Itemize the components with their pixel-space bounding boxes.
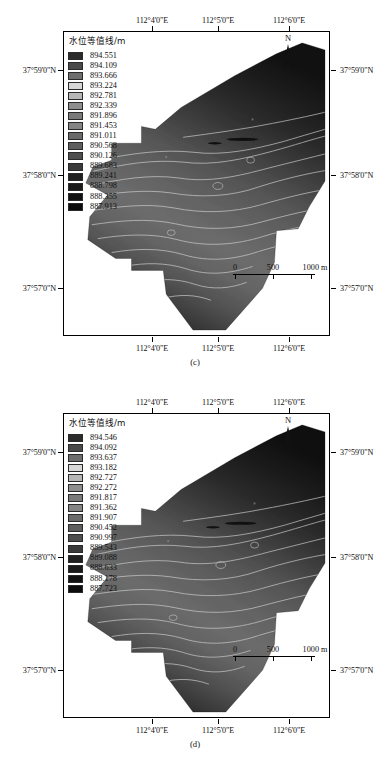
legend-item: 894.109 <box>68 61 154 71</box>
legend-value: 887.723 <box>90 585 117 593</box>
scalebar-tick-label: 0 <box>233 263 237 272</box>
axis-label-right-1: 37°58'0"N <box>340 553 373 562</box>
legend-title: 水位等值线/m <box>69 416 154 428</box>
legend-item: 893.182 <box>68 463 154 473</box>
axis-label-bottom-0: 112°4'0"E <box>136 344 168 353</box>
legend-swatch <box>68 142 83 150</box>
legend-swatch <box>68 444 83 452</box>
axis-label-bottom-0: 112°4'0"E <box>136 726 168 735</box>
axis-tick-bottom-2 <box>289 337 290 342</box>
legend-item: 889.683 <box>68 162 154 172</box>
legend-value: 893.224 <box>90 82 117 90</box>
legend-swatch <box>68 575 83 583</box>
legend-item: 891.907 <box>68 513 154 523</box>
legend-c: 水位等值线/m 894.551 894.109 893.666 893.224 … <box>68 34 154 212</box>
legend-value: 889.241 <box>90 172 117 180</box>
legend-item: 892.339 <box>68 101 154 111</box>
axis-label-right-0: 37°59'0"N <box>340 448 373 457</box>
legend-item: 891.453 <box>68 121 154 131</box>
legend-value: 892.727 <box>90 474 117 482</box>
scalebar-bar <box>233 274 315 275</box>
legend-item: 891.896 <box>68 111 154 121</box>
legend-swatch <box>68 555 83 563</box>
legend-swatch <box>68 62 83 70</box>
legend-item: 893.224 <box>68 81 154 91</box>
scalebar-line <box>233 656 315 662</box>
legend-swatch <box>68 102 83 110</box>
axis-label-left-2: 37°57'0"N <box>23 284 56 293</box>
legend-swatch <box>68 545 83 553</box>
north-arrow-icon <box>281 44 295 69</box>
legend-item: 888.178 <box>68 574 154 584</box>
scalebar-c: 0 500 1000 m <box>233 263 315 280</box>
scalebar-tick <box>273 274 274 279</box>
scalebar-tick-label: 1000 m <box>303 263 328 272</box>
axis-label-bottom-2: 112°6'0"E <box>273 344 305 353</box>
legend-value: 893.637 <box>90 454 117 462</box>
legend-swatch <box>68 152 83 160</box>
scalebar-tick <box>235 656 236 661</box>
legend-value: 893.666 <box>90 72 117 80</box>
legend-swatch <box>68 203 83 211</box>
axis-label-bottom-2: 112°6'0"E <box>273 726 305 735</box>
legend-swatch <box>68 82 83 90</box>
axis-label-left-2: 37°57'0"N <box>23 666 56 675</box>
scalebar-tick-label: 0 <box>233 645 237 654</box>
legend-value: 889.088 <box>90 554 117 562</box>
legend-value: 887.913 <box>90 203 117 211</box>
scalebar-tick <box>311 274 312 279</box>
axis-label-top-1: 112°5'0"E <box>202 16 234 25</box>
panel-caption-d: (d) <box>190 739 200 749</box>
scalebar-tick-label: 500 <box>267 645 279 654</box>
axis-tick-bottom-0 <box>152 719 153 724</box>
legend-value: 888.178 <box>90 575 117 583</box>
axis-tick-right-1 <box>331 557 336 558</box>
legend-value: 890.452 <box>90 524 117 532</box>
legend-item: 888.633 <box>68 564 154 574</box>
legend-value: 891.907 <box>90 514 117 522</box>
legend-value: 889.683 <box>90 162 117 170</box>
axis-label-top-2: 112°6'0"E <box>273 398 305 407</box>
map-panel-d: 112°4'0"E 112°5'0"E 112°6'0"E 37°59'0"N … <box>0 382 390 768</box>
legend-value: 890.568 <box>90 142 117 150</box>
scalebar-tick <box>273 656 274 661</box>
legend-swatch <box>68 514 83 522</box>
axis-label-top-0: 112°4'0"E <box>136 398 168 407</box>
legend-value: 888.633 <box>90 564 117 572</box>
legend-item: 890.997 <box>68 533 154 543</box>
legend-item: 894.546 <box>68 433 154 443</box>
legend-value: 894.546 <box>90 434 117 442</box>
north-arrow-d: N <box>281 415 295 451</box>
axis-label-right-2: 37°57'0"N <box>340 284 373 293</box>
legend-item: 892.727 <box>68 473 154 483</box>
legend-item: 892.781 <box>68 91 154 101</box>
legend-swatch <box>68 534 83 542</box>
legend-item: 893.666 <box>68 71 154 81</box>
scalebar-tick <box>311 656 312 661</box>
legend-value: 891.011 <box>90 132 117 140</box>
legend-items: 894.551 894.109 893.666 893.224 892.781 … <box>68 51 154 212</box>
scalebar-tick-label: 500 <box>267 263 279 272</box>
axis-label-top-1: 112°5'0"E <box>202 398 234 407</box>
axis-label-bottom-1: 112°5'0"E <box>202 726 234 735</box>
legend-value: 894.092 <box>90 444 117 452</box>
scalebar-tick-label: 1000 m <box>303 645 328 654</box>
scalebar-line <box>233 274 315 280</box>
axis-label-top-2: 112°6'0"E <box>273 16 305 25</box>
legend-swatch <box>68 173 83 181</box>
legend-item: 891.817 <box>68 493 154 503</box>
legend-item: 889.088 <box>68 554 154 564</box>
legend-value: 893.182 <box>90 464 117 472</box>
legend-value: 894.109 <box>90 62 117 70</box>
axis-tick-bottom-1 <box>218 719 219 724</box>
legend-item: 890.452 <box>68 523 154 533</box>
panel-caption-c: (c) <box>190 357 200 367</box>
scalebar-d: 0 500 1000 m <box>233 645 315 662</box>
legend-value: 891.362 <box>90 504 117 512</box>
axis-tick-right-0 <box>331 70 336 71</box>
legend-value: 888.355 <box>90 193 117 201</box>
axis-label-right-1: 37°58'0"N <box>340 171 373 180</box>
legend-swatch <box>68 112 83 120</box>
legend-value: 891.896 <box>90 112 117 120</box>
legend-swatch <box>68 183 83 191</box>
